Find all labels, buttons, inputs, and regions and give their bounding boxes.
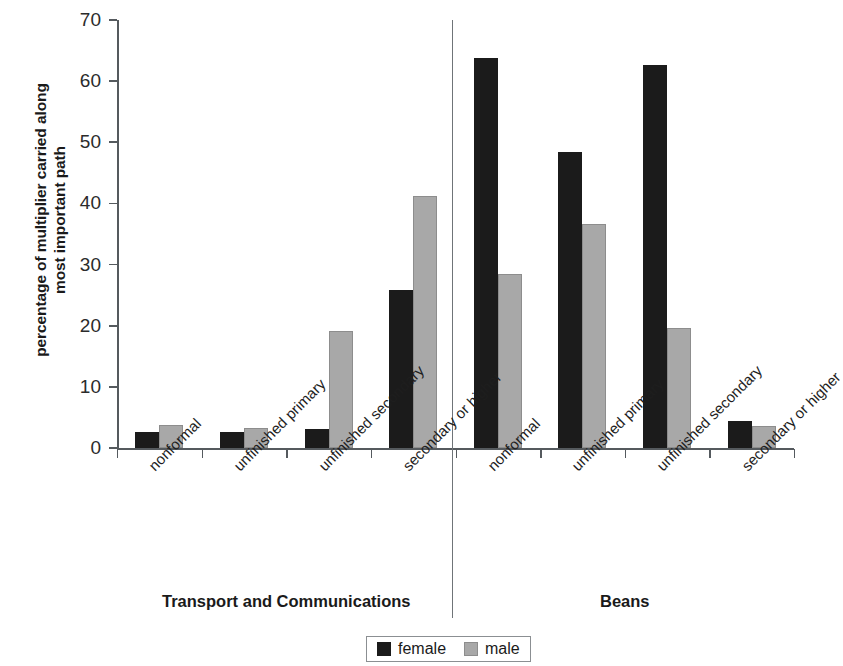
bar-female [305, 429, 329, 448]
y-axis-title-line-1: percentage of multiplier carried along [31, 83, 50, 357]
y-tick-mark [109, 80, 117, 82]
y-tick-mark [109, 325, 117, 327]
y-tick-label: 50 [55, 131, 101, 153]
bar-male [413, 196, 437, 448]
y-axis-title: percentage of multiplier carried along m… [20, 0, 80, 440]
legend-swatch-male-icon [464, 642, 478, 656]
legend: female male [366, 636, 531, 662]
y-tick-label: 0 [55, 437, 101, 459]
plot-area [117, 20, 794, 448]
legend-label-male: male [485, 640, 520, 658]
y-tick-mark [109, 386, 117, 388]
y-tick-mark [109, 264, 117, 266]
y-tick-label: 20 [55, 315, 101, 337]
y-tick-mark [109, 141, 117, 143]
x-tick-mark [202, 449, 203, 458]
legend-label-female: female [398, 640, 446, 658]
y-tick-label: 70 [55, 9, 101, 31]
x-tick-mark [625, 449, 626, 458]
bar-female [558, 152, 582, 448]
bar-female [220, 432, 244, 448]
bar-female [728, 421, 752, 449]
y-tick-mark [109, 203, 117, 205]
y-tick-label: 60 [55, 70, 101, 92]
x-tick-mark [794, 449, 795, 458]
y-tick-mark [109, 19, 117, 21]
y-tick-label: 30 [55, 254, 101, 276]
bar-male [582, 224, 606, 448]
y-tick-mark [109, 447, 117, 449]
group-caption-1: Transport and Communications [162, 592, 410, 611]
legend-swatch-female-icon [377, 642, 391, 656]
x-tick-mark [117, 449, 118, 458]
x-tick-mark [286, 449, 287, 458]
y-tick-label: 10 [55, 376, 101, 398]
legend-item-male: male [464, 640, 520, 658]
x-tick-mark [456, 449, 457, 458]
group-caption-2: Beans [600, 592, 650, 611]
bar-female [135, 432, 159, 448]
x-tick-mark [371, 449, 372, 458]
x-tick-mark [540, 449, 541, 458]
x-tick-mark [709, 449, 710, 458]
legend-item-female: female [377, 640, 446, 658]
y-tick-label: 40 [55, 192, 101, 214]
bar-male [498, 274, 522, 448]
